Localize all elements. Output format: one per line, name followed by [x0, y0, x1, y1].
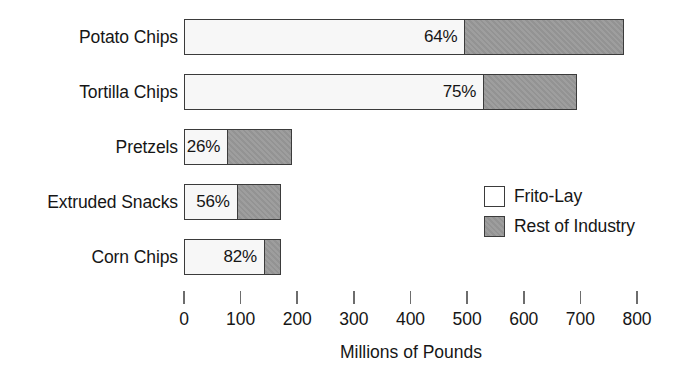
- bar-value-label: 64%: [424, 27, 464, 47]
- bar-segment-rest-of-industry: [236, 184, 281, 220]
- bar-value-label: 82%: [224, 247, 264, 267]
- category-label-tortilla-chips: Tortilla Chips: [0, 82, 178, 103]
- legend-item-rest-of-industry: Rest of Industry: [484, 211, 635, 241]
- bar-value-label: 75%: [443, 82, 483, 102]
- x-axis-tick-label: 600: [509, 309, 538, 330]
- bar-row-extruded-snacks: 56%: [184, 184, 281, 220]
- x-axis-tick-label: 400: [396, 309, 425, 330]
- x-axis-tick: [183, 291, 185, 304]
- x-axis-tick-label: 500: [453, 309, 482, 330]
- category-label-potato-chips: Potato Chips: [0, 27, 178, 48]
- category-label-pretzels: Pretzels: [0, 137, 178, 158]
- bar-segment-frito-lay: 82%: [184, 239, 265, 275]
- bar-segment-frito-lay: 64%: [184, 19, 465, 55]
- legend-swatch-icon: [484, 186, 505, 207]
- bar-row-pretzels: 26%: [184, 129, 292, 165]
- x-axis-tick: [410, 291, 412, 304]
- x-axis-tick: [580, 291, 582, 304]
- legend-swatch-icon: [484, 216, 505, 237]
- bar-value-label: 56%: [196, 192, 236, 212]
- category-label-corn-chips: Corn Chips: [0, 247, 178, 268]
- bar-segment-rest-of-industry: [263, 239, 280, 275]
- x-axis-tick-label: 0: [179, 309, 189, 330]
- x-axis-tick: [466, 291, 468, 304]
- x-axis-tick-label: 300: [339, 309, 368, 330]
- x-axis-tick: [240, 291, 242, 304]
- bar-row-tortilla-chips: 75%: [184, 74, 577, 110]
- bar-segment-frito-lay: 75%: [184, 74, 484, 110]
- bar-row-potato-chips: 64%: [184, 19, 624, 55]
- legend-item-frito-lay: Frito-Lay: [484, 181, 635, 211]
- chart-legend: Frito-Lay Rest of Industry: [484, 181, 635, 241]
- x-axis-tick: [523, 291, 525, 304]
- x-axis-tick: [636, 291, 638, 304]
- bar-segment-rest-of-industry: [227, 129, 293, 165]
- bar-value-label: 26%: [187, 137, 227, 157]
- x-axis-tick-label: 100: [226, 309, 255, 330]
- bar-segment-rest-of-industry: [464, 19, 624, 55]
- x-axis-title: Millions of Pounds: [340, 342, 482, 363]
- bar-row-corn-chips: 82%: [184, 239, 281, 275]
- category-label-extruded-snacks: Extruded Snacks: [0, 192, 178, 213]
- x-axis-tick: [296, 291, 298, 304]
- x-axis-tick-label: 200: [283, 309, 312, 330]
- stacked-bar-chart: Potato Chips Tortilla Chips Pretzels Ext…: [0, 0, 691, 382]
- bar-segment-rest-of-industry: [483, 74, 577, 110]
- legend-label: Rest of Industry: [514, 216, 635, 237]
- bar-segment-frito-lay: 26%: [184, 129, 228, 165]
- x-axis-tick: [353, 291, 355, 304]
- x-axis-tick-label: 700: [566, 309, 595, 330]
- legend-label: Frito-Lay: [514, 186, 582, 207]
- x-axis-tick-label: 800: [622, 309, 651, 330]
- bar-segment-frito-lay: 56%: [184, 184, 238, 220]
